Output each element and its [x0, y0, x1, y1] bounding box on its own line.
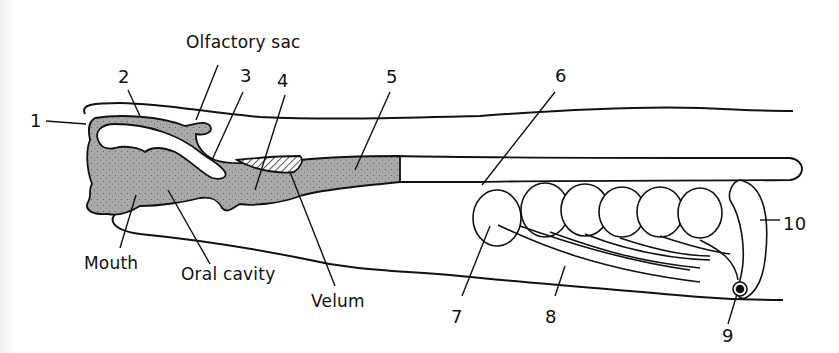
label-2: 2 [118, 68, 130, 86]
label-olfactory-sac: Olfactory sac [186, 34, 301, 51]
label-mouth: Mouth [84, 255, 138, 272]
label-6: 6 [555, 67, 567, 85]
label-velum: Velum [311, 293, 365, 310]
anatomy-drawing [0, 0, 839, 353]
label-1: 1 [30, 112, 42, 130]
label-10: 10 [783, 215, 806, 233]
label-oral-cavity: Oral cavity [181, 266, 275, 283]
anatomy-diagram: Olfactory sac Mouth Oral cavity Velum 1 … [0, 0, 839, 353]
label-7: 7 [451, 308, 463, 326]
label-8: 8 [545, 308, 557, 326]
label-9: 9 [722, 327, 734, 345]
label-5: 5 [386, 68, 398, 86]
label-4: 4 [277, 72, 289, 90]
label-3: 3 [240, 67, 252, 85]
dorsal-tube [395, 156, 802, 182]
